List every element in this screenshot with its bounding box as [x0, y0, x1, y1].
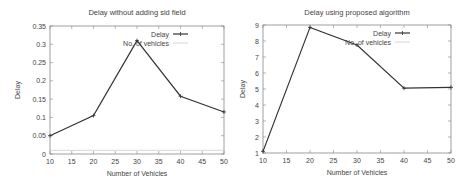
x-tick-label: 25 — [330, 157, 338, 164]
y-axis-label: Delay — [239, 80, 247, 98]
chart-title: Delay without adding sid field — [88, 8, 185, 17]
x-tick-label: 45 — [198, 158, 206, 165]
x-tick-label: 50 — [447, 157, 455, 164]
y-tick-label: 0.05 — [32, 132, 46, 139]
legend-delay-label: Delay — [151, 31, 169, 39]
x-tick-label: 50 — [220, 158, 228, 165]
x-tick-label: 15 — [283, 157, 291, 164]
y-tick-label: 0.35 — [32, 23, 46, 30]
x-axis-label: Number of Vehicles — [327, 169, 388, 176]
legend-vehicles-label: No. of vehicles — [123, 40, 169, 47]
delay-series-line — [50, 41, 224, 136]
x-tick-label: 45 — [424, 157, 432, 164]
legend: DelayNo. of vehicles — [345, 30, 410, 46]
y-tick-label: 9 — [255, 22, 259, 29]
x-tick-label: 20 — [90, 158, 98, 165]
x-tick-label: 15 — [68, 158, 76, 165]
y-tick-label: 5 — [255, 86, 259, 93]
x-tick-label: 35 — [155, 158, 163, 165]
y-tick-label: 0.3 — [36, 41, 46, 48]
y-tick-label: 4 — [255, 102, 259, 109]
x-tick-label: 10 — [46, 158, 54, 165]
chart-delay-proposed: Delay using proposed algorithm1015202530… — [235, 0, 471, 182]
y-tick-label: 8 — [255, 38, 259, 45]
y-tick-label: 1 — [255, 150, 259, 157]
y-tick-label: 7 — [255, 54, 259, 61]
chart-title: Delay using proposed algorithm — [304, 8, 409, 17]
x-axis-label: Number of Vehicles — [107, 170, 168, 177]
y-tick-label: 3 — [255, 118, 259, 125]
x-tick-label: 20 — [306, 157, 314, 164]
y-tick-label: 0.1 — [36, 114, 46, 121]
y-tick-label: 0.15 — [32, 96, 46, 103]
x-tick-label: 30 — [133, 158, 141, 165]
y-tick-label: 6 — [255, 70, 259, 77]
x-tick-label: 40 — [400, 157, 408, 164]
y-tick-label: 0 — [42, 151, 46, 158]
legend-delay-label: Delay — [373, 30, 391, 38]
chart-delay-without-sid: Delay without adding sid field1015202530… — [0, 0, 235, 182]
x-tick-label: 30 — [353, 157, 361, 164]
x-tick-label: 10 — [259, 157, 267, 164]
x-tick-label: 35 — [377, 157, 385, 164]
legend: DelayNo. of vehicles — [123, 31, 188, 47]
y-tick-label: 2 — [255, 134, 259, 141]
x-tick-label: 40 — [177, 158, 185, 165]
legend-vehicles-label: No. of vehicles — [345, 39, 391, 46]
y-tick-label: 0.2 — [36, 77, 46, 84]
x-tick-label: 25 — [111, 158, 119, 165]
y-axis-label: Delay — [14, 81, 22, 99]
y-tick-label: 0.25 — [32, 59, 46, 66]
